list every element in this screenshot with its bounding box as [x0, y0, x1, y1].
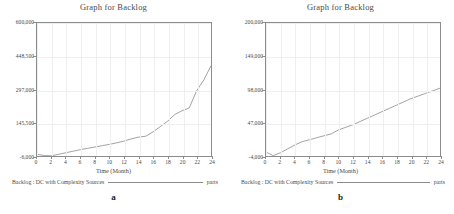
y-tick-label: 149,000: [227, 53, 263, 59]
gridline-horizontal: [37, 57, 211, 58]
x-tick-label: 20: [180, 159, 186, 166]
x-tick-label: 10: [107, 159, 113, 166]
x-tick-label: 14: [136, 159, 142, 166]
gridline-vertical: [266, 23, 267, 156]
gridline-horizontal: [266, 23, 440, 24]
x-tick-label: 10: [336, 159, 342, 166]
legend-line-swatch-b: [337, 182, 429, 183]
plot-area-b: [265, 22, 441, 157]
x-tick-mark: [397, 156, 398, 159]
data-polyline: [37, 66, 211, 156]
data-polyline: [266, 88, 440, 155]
gridline-vertical: [52, 23, 53, 156]
x-tick-mark: [95, 156, 96, 159]
y-tick-label: 98,000: [227, 87, 263, 93]
x-tick-mark: [324, 156, 325, 159]
x-tick-mark: [294, 156, 295, 159]
x-tick-label: 0: [264, 159, 267, 166]
subfigure-caption-b: b: [227, 192, 454, 202]
plot-area-a: [36, 22, 212, 157]
x-tick-label: 6: [79, 159, 82, 166]
gridline-vertical: [125, 23, 126, 156]
gridline-vertical: [37, 23, 38, 156]
x-tick-label: 16: [151, 159, 157, 166]
x-tick-mark: [124, 156, 125, 159]
y-tick-label: 297,000: [0, 87, 34, 93]
chart-title-a: Graph for Backlog: [0, 2, 227, 12]
gridline-horizontal: [37, 91, 211, 92]
x-tick-mark: [353, 156, 354, 159]
x-tick-label: 14: [365, 159, 371, 166]
x-tick-mark: [80, 156, 81, 159]
gridline-vertical: [81, 23, 82, 156]
x-tick-mark: [265, 156, 266, 159]
x-tick-mark: [168, 156, 169, 159]
gridline-vertical: [110, 23, 111, 156]
legend-line-swatch-a: [108, 182, 202, 183]
gridline-vertical: [354, 23, 355, 156]
y-tick-label: 47,000: [227, 120, 263, 126]
x-tick-label: 8: [93, 159, 96, 166]
chart-panel-a: Graph for Backlog 600,000448,500297,0001…: [0, 0, 227, 214]
x-tick-mark: [280, 156, 281, 159]
x-tick-label: 22: [195, 159, 201, 166]
y-tick-label: 600,000: [0, 19, 34, 25]
x-tick-mark: [212, 156, 213, 159]
x-tick-label: 2: [49, 159, 52, 166]
x-tick-mark: [412, 156, 413, 159]
legend-unit-a: parts: [207, 179, 218, 185]
x-tick-label: 18: [394, 159, 400, 166]
x-tick-label: 8: [322, 159, 325, 166]
legend-series-label-a: Backlog : DC with Complexity Sources: [12, 179, 104, 185]
legend-unit-b: parts: [434, 179, 445, 185]
legend-b: Backlog : DC with Complexity Sources par…: [241, 176, 445, 188]
legend-a: Backlog : DC with Complexity Sources par…: [12, 176, 218, 188]
x-tick-mark: [109, 156, 110, 159]
gridline-vertical: [310, 23, 311, 156]
x-tick-label: 6: [308, 159, 311, 166]
x-tick-label: 24: [438, 159, 444, 166]
series-line-b: [266, 23, 440, 156]
gridline-vertical: [96, 23, 97, 156]
gridline-horizontal: [266, 91, 440, 92]
legend-series-label-b: Backlog : DC with Complexity Sources: [241, 179, 333, 185]
gridline-vertical: [154, 23, 155, 156]
gridline-vertical: [339, 23, 340, 156]
y-tick-label: -6,000: [0, 154, 34, 160]
x-tick-mark: [382, 156, 383, 159]
x-tick-label: 4: [64, 159, 67, 166]
gridline-horizontal: [37, 124, 211, 125]
x-tick-mark: [51, 156, 52, 159]
gridline-vertical: [398, 23, 399, 156]
gridline-horizontal: [37, 23, 211, 24]
gridline-vertical: [427, 23, 428, 156]
x-tick-label: 22: [424, 159, 430, 166]
x-tick-label: 20: [409, 159, 415, 166]
subfigure-caption-a: a: [0, 192, 227, 202]
gridline-vertical: [140, 23, 141, 156]
x-tick-mark: [426, 156, 427, 159]
x-axis-title-b: Time (Month): [227, 167, 454, 174]
x-tick-label: 16: [380, 159, 386, 166]
figure-two-backlog-graphs: Graph for Backlog 600,000448,500297,0001…: [0, 0, 454, 214]
gridline-vertical: [169, 23, 170, 156]
x-axis-title-a: Time (Month): [0, 167, 227, 174]
x-tick-label: 24: [209, 159, 215, 166]
gridline-horizontal: [266, 57, 440, 58]
gridline-vertical: [66, 23, 67, 156]
gridline-vertical: [383, 23, 384, 156]
series-line-a: [37, 23, 211, 156]
x-tick-label: 18: [165, 159, 171, 166]
y-tick-label: 145,500: [0, 120, 34, 126]
x-tick-label: 0: [35, 159, 38, 166]
x-tick-label: 12: [350, 159, 356, 166]
x-tick-mark: [338, 156, 339, 159]
gridline-vertical: [325, 23, 326, 156]
y-tick-label: -4,000: [227, 154, 263, 160]
x-tick-mark: [183, 156, 184, 159]
y-tick-label: 200,000: [227, 19, 263, 25]
y-tick-label: 448,500: [0, 53, 34, 59]
gridline-vertical: [295, 23, 296, 156]
x-tick-mark: [309, 156, 310, 159]
gridline-horizontal: [266, 124, 440, 125]
